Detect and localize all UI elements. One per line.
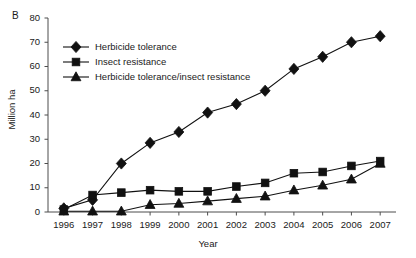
chart-figure: B Million ha Year 01020304050607080 1996…	[0, 0, 416, 258]
legend-marker-2	[72, 58, 80, 66]
plot-area	[0, 0, 416, 258]
data-point	[89, 191, 97, 199]
data-point	[118, 189, 126, 197]
data-point	[261, 179, 269, 187]
data-point	[231, 98, 241, 109]
data-point	[346, 174, 356, 183]
series-line	[64, 164, 380, 212]
series-line	[64, 161, 380, 210]
legend-marker-1	[71, 41, 81, 52]
data-point	[145, 137, 155, 148]
legend-marker-3	[71, 72, 81, 81]
data-point	[204, 188, 212, 196]
data-point	[175, 188, 183, 196]
data-point	[318, 51, 328, 62]
legend-label-1: Herbicide tolerance	[95, 41, 177, 52]
data-point	[289, 63, 299, 74]
data-point	[346, 37, 356, 48]
legend-label-2: Insect resistance	[95, 56, 166, 67]
data-point	[348, 162, 356, 170]
data-point	[375, 31, 385, 42]
data-point	[290, 169, 298, 177]
data-point	[203, 107, 213, 118]
legend-markers	[63, 41, 89, 80]
data-point	[319, 168, 327, 176]
data-point	[260, 85, 270, 96]
data-point	[88, 206, 98, 215]
data-point	[174, 126, 184, 137]
series-3	[59, 158, 385, 215]
series-2	[60, 157, 384, 213]
legend-label-3: Herbicide tolerance/insect resistance	[95, 71, 250, 82]
data-point	[146, 186, 154, 194]
data-point	[145, 200, 155, 209]
data-point	[233, 183, 241, 191]
